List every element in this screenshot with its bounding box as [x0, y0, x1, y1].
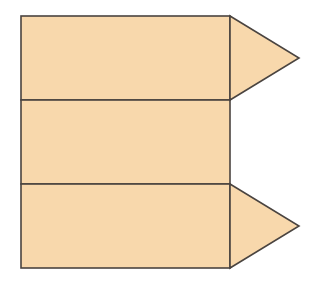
triangle-face-top	[230, 16, 299, 100]
triangle-face-bottom	[230, 184, 299, 268]
rectangle-face-bottom	[21, 184, 230, 268]
rectangle-face-top	[21, 16, 230, 100]
prism-net-diagram	[0, 0, 331, 289]
rectangle-face-middle	[21, 100, 230, 184]
